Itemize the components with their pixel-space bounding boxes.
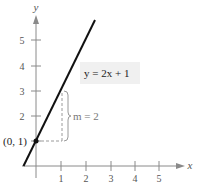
y-axis-label: y [33, 1, 39, 13]
x-tick-label: 2 [84, 173, 89, 184]
x-tick-label: 4 [133, 173, 138, 184]
y-tick-label: 4 [20, 61, 25, 72]
x-tick-label: 5 [157, 173, 162, 184]
y-axis [33, 15, 39, 178]
x-tick-label: 1 [59, 173, 64, 184]
x-axis-label: x [187, 159, 193, 171]
y-tick-label: 3 [20, 86, 25, 97]
y-tick-label: 5 [20, 35, 25, 46]
x-axis-arrow-icon [176, 163, 185, 169]
x-tick-label: 3 [109, 173, 114, 184]
line-y-2x-plus-1 [24, 20, 96, 166]
line-graph: 5 4 3 2 1 2 3 4 5 y x m = 2 (0, 1) y = 2… [0, 0, 197, 189]
y-axis-arrow-icon [33, 15, 39, 24]
slope-label: m = 2 [73, 110, 99, 122]
equation-label: y = 2x + 1 [84, 67, 129, 79]
intercept-point [34, 139, 39, 144]
point-label: (0, 1) [3, 135, 27, 148]
slope-brace-icon [64, 91, 71, 141]
y-tick-label: 2 [20, 111, 25, 122]
x-axis [22, 163, 185, 169]
